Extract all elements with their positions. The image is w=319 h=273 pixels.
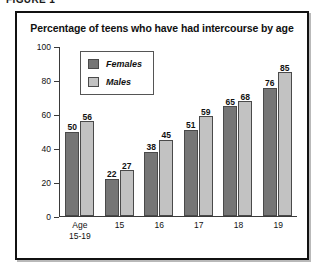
bar-value-label: 85	[280, 64, 289, 73]
y-axis-tick	[54, 149, 59, 150]
figure-frame: Percentage of teens who have had interco…	[15, 11, 309, 260]
y-axis-tick-label: 100	[37, 42, 51, 52]
bar-value-label: 68	[241, 93, 250, 102]
x-axis-label: 17	[179, 220, 219, 242]
bar-value-label: 51	[186, 121, 195, 130]
bar-value-label: 45	[162, 131, 171, 140]
x-axis-label: 16	[139, 220, 179, 242]
y-axis-tick	[54, 47, 59, 48]
x-axis-label-line2: 15-19	[60, 231, 100, 242]
bar-value-label: 27	[122, 162, 131, 171]
bar-value-label: 59	[201, 108, 210, 117]
bar-females-19[interactable]: 76	[263, 88, 277, 216]
bar-males-16[interactable]: 45	[159, 140, 173, 216]
bar-females-15[interactable]: 22	[105, 179, 119, 216]
bar-value-label: 38	[147, 143, 156, 152]
y-axis-tick-label: 80	[42, 76, 51, 86]
bar-group: 7685	[258, 47, 298, 216]
x-axis-label-line1: 18	[234, 220, 243, 230]
legend-item-females[interactable]: Females	[88, 57, 142, 71]
x-axis-line	[59, 216, 297, 217]
legend-label: Females	[106, 59, 142, 69]
bar-males-18[interactable]: 68	[238, 101, 252, 216]
legend-swatch-icon	[88, 59, 99, 69]
bar-value-label: 50	[68, 123, 77, 132]
bar-males-age-15-19[interactable]: 56	[80, 121, 94, 216]
y-axis-tick	[54, 183, 59, 184]
bar-males-19[interactable]: 85	[278, 72, 292, 216]
chart-title: Percentage of teens who have had interco…	[17, 22, 307, 34]
legend-item-males[interactable]: Males	[88, 75, 142, 89]
bar-group: 5159	[179, 47, 219, 216]
x-axis-label-line1: 16	[154, 220, 163, 230]
bar-value-label: 56	[83, 113, 92, 122]
y-axis-tick	[54, 217, 59, 218]
y-axis-tick-label: 0	[46, 212, 51, 222]
bar-value-label: 65	[226, 98, 235, 107]
x-axis-label-line1: 19	[273, 220, 282, 230]
x-axis-label: 18	[219, 220, 259, 242]
x-axis-labels: Age15-191516171819	[60, 220, 298, 242]
legend-swatch-icon	[88, 77, 99, 87]
x-axis-label-line1: 15	[115, 220, 124, 230]
bar-males-15[interactable]: 27	[120, 170, 134, 216]
y-axis-tick-label: 60	[42, 110, 51, 120]
bar-value-label: 76	[265, 79, 274, 88]
x-axis-label: 19	[258, 220, 298, 242]
figure-caption: FIGURE 1	[6, 0, 55, 5]
bar-females-18[interactable]: 65	[223, 106, 237, 216]
bar-males-17[interactable]: 59	[199, 116, 213, 216]
bar-females-16[interactable]: 38	[144, 152, 158, 216]
bar-females-17[interactable]: 51	[184, 130, 198, 216]
x-axis-label-line1: 17	[194, 220, 203, 230]
bar-group: 6568	[218, 47, 258, 216]
x-axis-label: 15	[100, 220, 140, 242]
legend-label: Males	[106, 77, 131, 87]
y-axis-tick-label: 20	[42, 178, 51, 188]
chart-legend: FemalesMales	[80, 51, 154, 95]
bar-value-label: 22	[107, 170, 116, 179]
x-axis-label-line1: Age	[72, 220, 87, 230]
x-axis-label: Age15-19	[60, 220, 100, 242]
bar-females-age-15-19[interactable]: 50	[65, 132, 79, 217]
y-axis-tick	[54, 115, 59, 116]
y-axis-tick	[54, 81, 59, 82]
y-axis-tick-label: 40	[42, 144, 51, 154]
